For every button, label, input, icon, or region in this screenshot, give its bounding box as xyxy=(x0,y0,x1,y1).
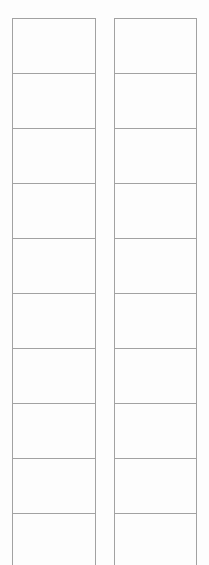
table-cell[interactable] xyxy=(114,403,197,458)
table-cell[interactable] xyxy=(12,18,96,73)
table-cell[interactable] xyxy=(114,73,197,128)
table-cell[interactable] xyxy=(12,128,96,183)
table-cell[interactable] xyxy=(12,73,96,128)
table-cell[interactable] xyxy=(114,18,197,73)
table-cell[interactable] xyxy=(114,128,197,183)
table-cell[interactable] xyxy=(12,513,96,565)
table-cell[interactable] xyxy=(12,403,96,458)
table-cell[interactable] xyxy=(12,238,96,293)
table-cell[interactable] xyxy=(12,183,96,238)
page-canvas xyxy=(0,0,209,565)
left-column xyxy=(12,18,96,565)
table-cell[interactable] xyxy=(114,183,197,238)
table-cell[interactable] xyxy=(12,458,96,513)
table-cell[interactable] xyxy=(12,293,96,348)
right-column xyxy=(114,18,197,565)
table-cell[interactable] xyxy=(114,348,197,403)
table-cell[interactable] xyxy=(12,348,96,403)
table-cell[interactable] xyxy=(114,238,197,293)
table-cell[interactable] xyxy=(114,458,197,513)
two-column-grid xyxy=(0,0,209,565)
table-cell[interactable] xyxy=(114,513,197,565)
table-cell[interactable] xyxy=(114,293,197,348)
